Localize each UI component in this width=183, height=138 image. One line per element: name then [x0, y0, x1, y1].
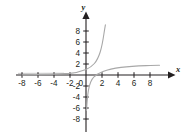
y-tick-label: -8: [73, 115, 81, 124]
y-axis-label: y: [81, 2, 86, 12]
graph-figure: -8 -6 -4 -2 2 4 6 8 8 6 4 2 -2 -4 -6 -8 …: [0, 0, 183, 138]
y-tick-label: 2: [75, 60, 80, 69]
origin-label: 0: [78, 79, 83, 88]
x-tick-label: 8: [148, 79, 153, 88]
x-axis-label: x: [175, 64, 181, 74]
y-axis-arrow-icon: [82, 12, 89, 20]
x-tick-label: 2: [100, 79, 105, 88]
x-axis-arrow-icon: [168, 71, 176, 78]
x-tick-label: 6: [132, 79, 137, 88]
x-tick-label: -4: [50, 79, 58, 88]
y-tick-label: 6: [75, 38, 80, 47]
x-tick-label: -6: [34, 79, 42, 88]
coordinate-plane: -8 -6 -4 -2 2 4 6 8 8 6 4 2 -2 -4 -6 -8 …: [0, 0, 183, 138]
exponential-curve: [22, 25, 105, 75]
y-tick-label: 8: [75, 27, 80, 36]
y-tick-label: -4: [73, 93, 81, 102]
x-tick-label: -8: [18, 79, 26, 88]
y-tick-label: 4: [75, 49, 80, 58]
x-tick-label: 4: [116, 79, 121, 88]
y-tick-label: -6: [73, 104, 81, 113]
